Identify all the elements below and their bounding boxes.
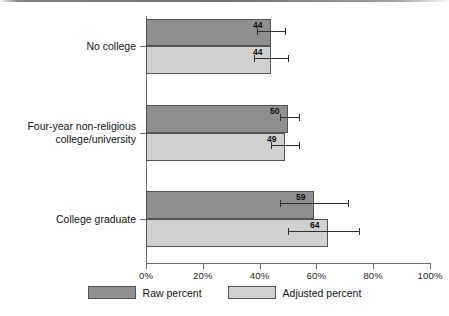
x-axis-label-80: 80% (353, 270, 393, 281)
error-bar-raw-no-college (257, 31, 286, 32)
chart-legend: Raw percent Adjusted percent (0, 286, 449, 299)
value-label-adjusted-college-graduate: 64 (310, 220, 320, 230)
error-cap-high-adjusted-college-graduate (359, 228, 360, 235)
bar-raw-four-year (146, 105, 288, 133)
error-cap-high-raw-four-year (299, 114, 300, 121)
error-bar-adjusted-four-year (271, 145, 299, 146)
error-bar-raw-four-year (280, 117, 300, 118)
legend-item-raw-percent: Raw percent (88, 286, 202, 299)
error-cap-high-adjusted-four-year (299, 142, 300, 149)
error-cap-low-adjusted-four-year (271, 142, 272, 149)
error-cap-high-raw-college-graduate (348, 200, 349, 207)
category-label-no-college: No college (0, 40, 136, 53)
error-cap-low-adjusted-college-graduate (288, 228, 289, 235)
legend-swatch-adjusted-icon (228, 286, 276, 299)
x-axis-tick-40 (260, 264, 261, 269)
bar-chart: 0% 20% 40% 60% 80% 100% No college Four-… (0, 0, 449, 316)
error-cap-low-raw-no-college (257, 28, 258, 35)
x-axis-tick-60 (316, 264, 317, 269)
x-axis-tick-100 (430, 264, 431, 269)
top-divider-rule (0, 0, 449, 2)
x-axis-tick-20 (203, 264, 204, 269)
category-label-four-year-non-religious: Four-year non-religious college/universi… (0, 120, 136, 145)
legend-label-raw-percent: Raw percent (143, 287, 202, 299)
category-label-college-graduate: College graduate (0, 213, 136, 226)
value-label-raw-four-year: 50 (270, 106, 280, 116)
x-axis-label-20: 20% (183, 270, 223, 281)
legend-item-adjusted-percent: Adjusted percent (228, 286, 362, 299)
error-bar-adjusted-college-graduate (288, 231, 359, 232)
error-cap-high-adjusted-no-college (288, 55, 289, 62)
error-cap-low-raw-four-year (280, 114, 281, 121)
legend-swatch-raw-icon (88, 286, 136, 299)
bar-adjusted-four-year (146, 133, 285, 161)
x-axis-label-40: 40% (240, 270, 280, 281)
x-axis-label-60: 60% (296, 270, 336, 281)
bar-adjusted-college-graduate (146, 219, 328, 247)
error-cap-low-adjusted-no-college (254, 55, 255, 62)
x-axis-tick-80 (373, 264, 374, 269)
x-axis-tick-0 (146, 264, 147, 269)
x-axis-line (146, 263, 431, 264)
error-bar-raw-college-graduate (280, 203, 348, 204)
error-bar-adjusted-no-college (254, 58, 288, 59)
value-label-raw-no-college: 44 (253, 20, 263, 30)
error-cap-low-raw-college-graduate (280, 200, 281, 207)
bar-raw-college-graduate (146, 191, 314, 219)
value-label-raw-college-graduate: 59 (296, 192, 306, 202)
x-axis-label-0: 0% (126, 270, 166, 281)
error-cap-high-raw-no-college (285, 28, 286, 35)
x-axis-label-100: 100% (410, 270, 449, 281)
legend-label-adjusted-percent: Adjusted percent (283, 287, 362, 299)
